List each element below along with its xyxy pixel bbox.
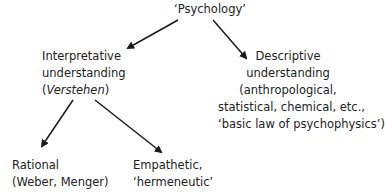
descriptive-line-2: understanding — [218, 65, 358, 82]
verstehen-term: Verstehen — [47, 83, 105, 97]
empathetic-line-1: Empathetic, — [133, 157, 213, 174]
rational-line-1: Rational — [12, 157, 109, 174]
descriptive-line-1: Descriptive — [218, 48, 358, 65]
rational-line-2: (Weber, Menger) — [12, 174, 109, 191]
node-empathetic: Empathetic, ‘hermeneutic’ — [133, 157, 213, 191]
arrow-interpretative-to-empathetic — [95, 100, 161, 152]
arrow-interpretative-to-rational — [42, 100, 73, 146]
interpretative-line-2: understanding — [42, 65, 126, 82]
node-interpretative-understanding: Interpretative understanding (Verstehen) — [42, 48, 126, 99]
empathetic-line-2: ‘hermeneutic’ — [133, 174, 213, 191]
interpretative-line-1: Interpretative — [42, 48, 126, 65]
paren-close: ) — [105, 83, 110, 97]
descriptive-line-3: (anthropological, — [218, 82, 358, 99]
interpretative-line-3: (Verstehen) — [42, 82, 126, 99]
node-rational: Rational (Weber, Menger) — [12, 157, 109, 191]
node-descriptive-understanding: Descriptive understanding (anthropologic… — [218, 48, 358, 133]
node-psychology: ‘Psychology’ — [160, 1, 260, 18]
node-psychology-label: ‘Psychology’ — [160, 1, 260, 18]
descriptive-line-4: statistical, chemical, etc., — [218, 99, 358, 116]
arrow-psychology-to-interpretative — [128, 20, 178, 48]
descriptive-line-5: ‘basic law of psychophysics’) — [218, 116, 358, 133]
